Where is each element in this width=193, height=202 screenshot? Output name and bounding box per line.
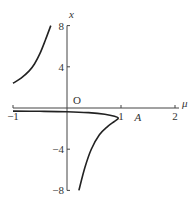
x-tick-label: 1 [118, 110, 124, 122]
x-axis-label: μ [181, 97, 188, 109]
y-axis-label: x [68, 8, 74, 20]
annotation-label: A [134, 111, 142, 123]
y-tick-label: −4 [52, 143, 64, 155]
y-tick-label: −8 [52, 184, 64, 196]
y-tick-label: 8 [59, 20, 65, 32]
y-tick-label: 4 [59, 61, 65, 73]
lower-branch-curve [13, 111, 118, 190]
x-tick-label: 2 [172, 110, 178, 122]
origin-label: O [73, 94, 81, 106]
annotations: A [134, 111, 142, 123]
upper-branch-curve [13, 26, 51, 84]
chart: −112 84−4−8 μ x O A [0, 0, 193, 202]
